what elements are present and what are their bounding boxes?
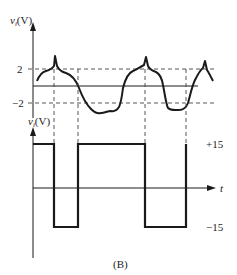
top-plot: vi(V) 2 −2: [10, 14, 215, 118]
level-label-high: +15: [206, 138, 224, 150]
input-signal-waveform: [37, 56, 213, 113]
level-label-low: −15: [206, 221, 224, 233]
comparator-waveform-diagram: vi(V) 2 −2 vi(V) +15 −15 t (B): [0, 0, 237, 275]
time-axis-arrow-icon: [207, 185, 216, 191]
tick-label-lower: −2: [12, 97, 24, 109]
tick-label-upper: 2: [17, 63, 23, 75]
top-y-label: vi(V): [10, 14, 32, 28]
transition-guides: [54, 69, 186, 228]
output-square-wave: [33, 144, 186, 227]
bottom-y-label: vi(V): [28, 115, 50, 129]
bottom-plot: vi(V) +15 −15 t: [28, 115, 224, 258]
figure-caption: (B): [113, 258, 128, 271]
time-axis-label: t: [220, 182, 224, 194]
